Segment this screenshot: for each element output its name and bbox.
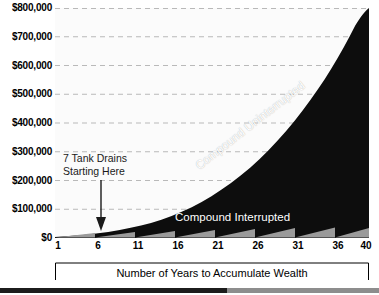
wealth-accumulation-chart: $800,000 $700,000 $600,000 $500,000 $400… xyxy=(0,0,379,295)
y-tick-label: $200,000 xyxy=(0,176,52,186)
x-axis-title: Number of Years to Accumulate Wealth xyxy=(55,267,369,279)
down-arrow-icon xyxy=(93,180,109,232)
x-axis-tick-labels: 1 6 11 16 21 26 31 36 40 xyxy=(55,240,369,254)
y-tick-label: $600,000 xyxy=(0,61,52,71)
x-tick-label: 21 xyxy=(212,240,223,251)
y-tick-label: $400,000 xyxy=(0,118,52,128)
annotation-arrow xyxy=(93,180,109,232)
y-tick-label: $0 xyxy=(0,233,52,243)
y-tick-label: $500,000 xyxy=(0,89,52,99)
bottom-rule-light-segment xyxy=(227,288,379,293)
x-tick-label: 26 xyxy=(252,240,263,251)
x-tick-label: 36 xyxy=(332,240,343,251)
y-tick-label: $700,000 xyxy=(0,32,52,42)
y-tick-label: $800,000 xyxy=(0,3,52,13)
x-tick-label: 40 xyxy=(360,240,371,251)
bottom-rule-dark-segment xyxy=(0,288,227,293)
annotation-line-1: 7 Tank Drains xyxy=(63,152,168,165)
x-axis-title-group: Number of Years to Accumulate Wealth xyxy=(55,262,369,284)
x-tick-label: 6 xyxy=(95,240,101,251)
bottom-rule xyxy=(0,288,379,293)
tank-drains-annotation: 7 Tank Drains Starting Here xyxy=(63,152,168,178)
x-tick-label: 1 xyxy=(55,240,61,251)
series-label-interrupted: Compound Interrupted xyxy=(175,211,290,223)
y-tick-label: $300,000 xyxy=(0,147,52,157)
x-tick-label: 16 xyxy=(172,240,183,251)
x-tick-label: 11 xyxy=(133,240,144,251)
y-axis-tick-labels: $800,000 $700,000 $600,000 $500,000 $400… xyxy=(0,0,52,295)
annotation-line-2: Starting Here xyxy=(63,165,168,178)
y-tick-label: $100,000 xyxy=(0,204,52,214)
x-tick-label: 31 xyxy=(292,240,303,251)
